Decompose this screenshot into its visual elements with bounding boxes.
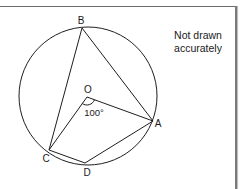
label-o: O <box>84 84 92 95</box>
note-line-1: Not drawn <box>162 29 234 42</box>
segment-bc <box>49 28 82 150</box>
note-line-2: accurately <box>162 42 234 55</box>
label-a: A <box>155 118 162 129</box>
circle <box>19 27 157 165</box>
figure-frame: B O A C D 100° Not drawn accurately <box>0 0 240 189</box>
label-d: D <box>83 167 90 178</box>
label-c: C <box>42 153 49 164</box>
segment-oc <box>49 97 87 150</box>
label-b: B <box>78 15 85 26</box>
angle-label: 100° <box>84 107 104 118</box>
not-drawn-accurately-note: Not drawn accurately <box>162 29 234 55</box>
segment-ad <box>85 121 153 163</box>
